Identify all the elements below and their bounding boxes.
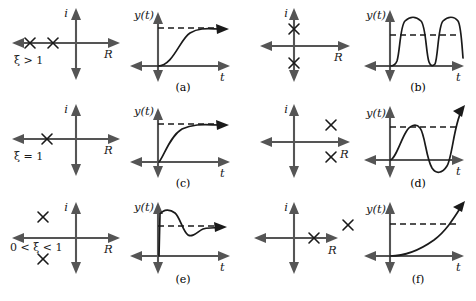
response-axes <box>130 12 230 82</box>
panel-caption: (a) <box>175 81 190 94</box>
panel-b-pole-plot: i R <box>252 6 362 84</box>
damping-ratio-label: ξ = 1 <box>14 150 43 163</box>
real-axis-label: R <box>333 50 343 64</box>
panel-caption: (b) <box>410 81 426 94</box>
response-curve <box>390 207 461 256</box>
imaginary-axis-label: i <box>64 102 68 116</box>
response-curve <box>390 112 461 172</box>
panel-f-caption-wrap: (f) <box>362 268 474 287</box>
complex-plane-axes <box>254 202 338 274</box>
panel-e-pole-plot: i R 0 < ξ < 1 <box>8 198 128 278</box>
imaginary-axis-label: i <box>284 200 288 214</box>
panel-a-caption-wrap: (a) <box>128 76 238 95</box>
response-curve <box>159 125 220 162</box>
response-curve <box>158 29 220 66</box>
pole-marker <box>38 254 48 264</box>
panel-a-pole-plot: i R ξ > 1 <box>8 6 128 84</box>
imaginary-axis-label: i <box>284 6 288 20</box>
panel-c-step-response: y(t) t <box>128 102 238 180</box>
imaginary-axis-label: i <box>64 6 68 20</box>
imaginary-axis-label: i <box>284 102 288 116</box>
pole-zero-step-response-figure: i R ξ > 1 y(t) t (a) <box>0 0 476 301</box>
output-axis-label: y(t) <box>133 8 154 22</box>
panel-e-caption-wrap: (e) <box>128 268 238 287</box>
panel-c-caption-wrap: (c) <box>128 172 238 191</box>
complex-plane-axes <box>260 8 350 82</box>
pole-marker <box>326 120 336 130</box>
real-axis-label: R <box>327 243 337 257</box>
panel-d-pole-plot: i R <box>252 102 362 180</box>
output-axis-label: y(t) <box>133 104 154 118</box>
panel-caption: (f) <box>412 273 425 286</box>
output-axis-label: y(t) <box>133 200 154 214</box>
real-axis-label: R <box>103 47 113 61</box>
panel-caption: (c) <box>176 177 191 190</box>
panel-a-step-response: y(t) t <box>128 6 238 84</box>
panel-b-caption-wrap: (b) <box>362 76 474 95</box>
output-axis-label: y(t) <box>365 202 386 216</box>
panel-c-pole-plot: i R ξ = 1 <box>8 102 128 180</box>
real-axis-label: R <box>339 147 349 161</box>
output-axis-label: y(t) <box>365 106 386 120</box>
panel-d-step-response: y(t) t <box>362 102 474 180</box>
imaginary-axis-label: i <box>64 200 68 214</box>
real-axis-label: R <box>103 143 113 157</box>
panel-e-step-response: y(t) t <box>128 198 238 278</box>
response-arrowhead <box>214 222 227 232</box>
response-arrowhead <box>216 120 229 130</box>
panel-f-step-response: y(t) t <box>362 198 474 278</box>
real-axis-label: R <box>103 242 113 256</box>
pole-marker <box>343 220 353 230</box>
damping-ratio-label: 0 < ξ < 1 <box>10 241 62 254</box>
response-curve <box>159 210 218 256</box>
pole-marker <box>326 152 336 162</box>
pole-marker <box>38 212 48 222</box>
panel-caption: (e) <box>175 273 190 286</box>
panel-d-caption-wrap: (d) <box>362 172 474 191</box>
output-axis-label: y(t) <box>365 8 386 22</box>
panel-caption: (d) <box>410 177 426 190</box>
response-curve <box>390 17 463 66</box>
panel-b-step-response: y(t) t <box>362 6 474 84</box>
complex-plane-axes <box>260 104 350 178</box>
response-arrowhead <box>216 24 229 34</box>
damping-ratio-label: ξ > 1 <box>14 54 43 67</box>
panel-f-pole-plot: i R <box>252 198 367 278</box>
response-axes <box>130 108 230 178</box>
